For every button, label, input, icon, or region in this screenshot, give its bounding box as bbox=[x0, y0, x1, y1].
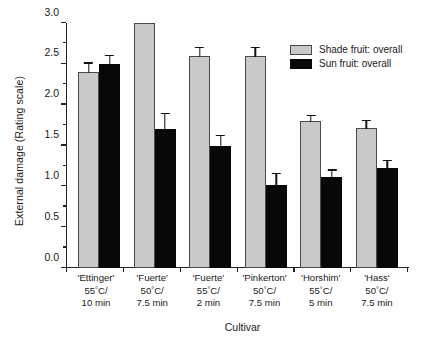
x-category-label: 'Horshim'55°C/5 min bbox=[293, 272, 349, 310]
bar-shade-fruit bbox=[78, 72, 99, 268]
error-bar bbox=[220, 135, 221, 146]
y-tick-label: 0.5 bbox=[44, 210, 59, 222]
legend-swatch-sun bbox=[290, 59, 312, 69]
y-axis-title: External damage (Rating scale) bbox=[13, 46, 25, 256]
error-bar bbox=[199, 47, 200, 57]
cultivar-name: 'Hass' bbox=[349, 272, 405, 284]
treatment-duration: 7.5 min bbox=[237, 297, 293, 309]
y-tick-label: 1.0 bbox=[44, 169, 59, 181]
treatment-temperature: 55°C/ bbox=[180, 284, 236, 297]
cultivar-name: 'Pinkerton' bbox=[237, 272, 293, 284]
legend-swatch-shade bbox=[290, 45, 312, 55]
bar-group bbox=[245, 23, 287, 268]
cultivar-name: 'Fuerte' bbox=[180, 272, 236, 284]
y-tick-label: 1.5 bbox=[44, 128, 59, 140]
treatment-temperature: 50°C/ bbox=[124, 284, 180, 297]
bar-group bbox=[134, 23, 176, 268]
x-category-label: 'Fuerte'55°C/2 min bbox=[180, 272, 236, 310]
bar-shade-fruit bbox=[134, 23, 155, 268]
x-category-label: 'Pinkerton'50°C/7.5 min bbox=[237, 272, 293, 310]
treatment-duration: 2 min bbox=[180, 297, 236, 309]
degree-symbol: ° bbox=[207, 285, 210, 294]
treatment-temperature: 50°C/ bbox=[349, 284, 405, 297]
treatment-temperature: 55°C/ bbox=[68, 284, 124, 297]
x-category-label: 'Fuerte'50°C/7.5 min bbox=[124, 272, 180, 310]
bar-sun-fruit bbox=[377, 168, 398, 268]
legend-entry: Shade fruit: overall bbox=[290, 44, 402, 55]
bar-shade-fruit bbox=[245, 56, 266, 268]
treatment-temperature: 55°C/ bbox=[293, 284, 349, 297]
degree-symbol: ° bbox=[320, 285, 323, 294]
degree-symbol: ° bbox=[151, 285, 154, 294]
error-bar bbox=[255, 47, 256, 57]
bar-shade-fruit bbox=[189, 56, 210, 268]
error-bar bbox=[164, 113, 165, 130]
error-bar bbox=[276, 173, 277, 186]
treatment-duration: 7.5 min bbox=[349, 297, 405, 309]
x-category-label: 'Ettinger'55°C/10 min bbox=[68, 272, 124, 310]
bar-sun-fruit bbox=[266, 185, 287, 268]
cultivar-name: 'Horshim' bbox=[293, 272, 349, 284]
chart-legend: Shade fruit: overallSun fruit: overall bbox=[290, 44, 402, 72]
chart-figure: External damage (Rating scale) 0.00.51.0… bbox=[0, 0, 423, 344]
degree-symbol: ° bbox=[376, 285, 379, 294]
bar-sun-fruit bbox=[155, 129, 176, 268]
error-bar bbox=[366, 120, 367, 129]
x-axis-category-labels: 'Ettinger'55°C/10 min'Fuerte'50°C/7.5 mi… bbox=[66, 272, 407, 310]
y-tick-label: 2.5 bbox=[44, 46, 59, 58]
bar-group bbox=[189, 23, 231, 268]
error-bar bbox=[310, 115, 311, 122]
legend-entry: Sun fruit: overall bbox=[290, 58, 402, 69]
y-tick-label: 3.0 bbox=[44, 6, 59, 18]
error-bar bbox=[88, 62, 89, 73]
legend-label: Shade fruit: overall bbox=[319, 44, 402, 55]
bar-shade-fruit bbox=[300, 121, 321, 268]
x-tick bbox=[407, 268, 408, 272]
treatment-temperature: 50°C/ bbox=[237, 284, 293, 297]
treatment-duration: 10 min bbox=[68, 297, 124, 309]
error-bar bbox=[331, 169, 332, 177]
bar-sun-fruit bbox=[99, 64, 120, 268]
bar-shade-fruit bbox=[356, 128, 377, 268]
y-tick-label: 2.0 bbox=[44, 87, 59, 99]
cultivar-name: 'Fuerte' bbox=[124, 272, 180, 284]
error-bar bbox=[387, 160, 388, 170]
bar-group bbox=[78, 23, 120, 268]
legend-label: Sun fruit: overall bbox=[319, 58, 391, 69]
y-tick-label: 0.0 bbox=[44, 251, 59, 263]
treatment-duration: 7.5 min bbox=[124, 297, 180, 309]
degree-symbol: ° bbox=[95, 285, 98, 294]
treatment-duration: 5 min bbox=[293, 297, 349, 309]
error-bar bbox=[109, 55, 110, 65]
cultivar-name: 'Ettinger' bbox=[68, 272, 124, 284]
bar-sun-fruit bbox=[210, 146, 231, 269]
x-category-label: 'Hass'50°C/7.5 min bbox=[349, 272, 405, 310]
degree-symbol: ° bbox=[264, 285, 267, 294]
bar-sun-fruit bbox=[321, 177, 342, 268]
x-axis-title: Cultivar bbox=[0, 321, 423, 333]
